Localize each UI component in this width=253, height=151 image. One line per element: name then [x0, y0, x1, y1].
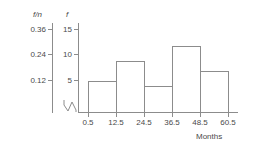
secondary-y-tick-label-036: 0.36 — [14, 25, 46, 34]
x-tick-0 — [88, 112, 89, 117]
secondary-y-tick-label-012: 0.12 — [14, 76, 46, 85]
x-tick-1 — [116, 112, 117, 117]
primary-y-tick-label-5: 5 — [50, 76, 72, 85]
secondary-axis-header-numerator: f — [33, 10, 35, 19]
x-tick-2 — [144, 112, 145, 117]
primary-y-tick-10 — [74, 54, 79, 55]
histogram-bar-4 — [172, 46, 201, 112]
histogram-chart: f/n f 0.36 0.24 0.12 15 10 5 0.5 12.5 — [0, 0, 253, 151]
x-tick-label-4: 48.5 — [186, 118, 214, 127]
primary-y-tick-label-15: 15 — [50, 25, 72, 34]
secondary-y-axis-line — [52, 23, 53, 113]
histogram-bar-1 — [88, 81, 117, 112]
secondary-axis-header: f/n — [33, 10, 42, 19]
x-tick-label-5: 60.5 — [214, 118, 242, 127]
secondary-axis-header-denominator: n — [37, 10, 41, 19]
primary-axis-header-label: f — [66, 10, 68, 19]
histogram-bar-5 — [200, 71, 229, 112]
x-tick-label-2: 24.5 — [130, 118, 158, 127]
x-tick-5 — [228, 112, 229, 117]
x-tick-label-1: 12.5 — [102, 118, 130, 127]
primary-axis-header: f — [66, 10, 68, 19]
x-axis-line — [78, 112, 238, 113]
x-tick-4 — [200, 112, 201, 117]
primary-y-tick-label-10: 10 — [50, 50, 72, 59]
histogram-bar-2 — [116, 61, 145, 112]
axis-break-icon — [63, 99, 85, 117]
x-axis-title: Months — [196, 132, 222, 141]
x-tick-label-3: 36.5 — [158, 118, 186, 127]
primary-y-tick-15 — [74, 29, 79, 30]
secondary-y-tick-label-024: 0.24 — [14, 50, 46, 59]
x-tick-label-0: 0.5 — [74, 118, 102, 127]
histogram-bar-3 — [144, 86, 173, 112]
primary-y-tick-5 — [74, 80, 79, 81]
x-tick-3 — [172, 112, 173, 117]
